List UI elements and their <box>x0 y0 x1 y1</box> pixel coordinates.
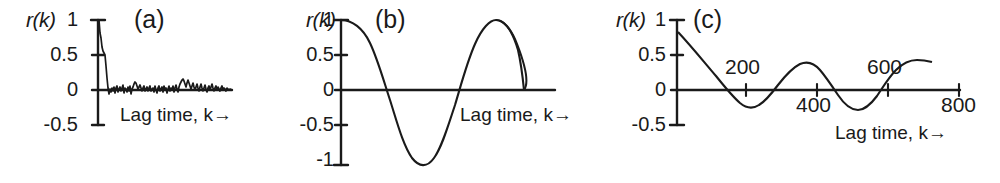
data-curve-b-tail <box>496 20 524 90</box>
panel-b: r(k) (b) 1 0.5 0 -0.5 -1 Lag time, k→ <box>300 0 620 183</box>
data-curve-b <box>341 20 526 165</box>
plot-area-c <box>620 0 1000 183</box>
data-curve-c <box>678 32 932 110</box>
plot-area-a <box>0 0 333 183</box>
panel-a: r(k) (a) 1 0.5 0 -0.5 Lag time, k→ <box>0 0 333 183</box>
plot-area-b <box>300 0 620 183</box>
data-curve-a <box>99 20 232 94</box>
panel-c: r(k) (c) 1 0.5 0 -0.5 200 400 600 800 La… <box>620 0 1000 183</box>
